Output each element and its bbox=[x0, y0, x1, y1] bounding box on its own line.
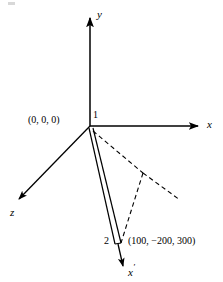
y-axis-label: y bbox=[97, 9, 102, 20]
z-axis-label: z bbox=[10, 207, 14, 218]
z-axis-line bbox=[19, 126, 90, 199]
node-1-coordinate-label: (0, 0, 0) bbox=[28, 115, 60, 125]
member-1-2-edge-left bbox=[89, 128, 115, 244]
member-1-2-end-cap bbox=[115, 243, 121, 244]
dashed-vertex-to-node-2 bbox=[121, 173, 143, 243]
dashed-vertex-to-lower-right bbox=[143, 173, 180, 200]
node-1-label: 1 bbox=[93, 110, 98, 120]
node-2-coordinate-label: (100, −200, 300) bbox=[128, 236, 195, 246]
x-axis-label: x bbox=[207, 119, 212, 130]
x-prime-axis-label: x′ bbox=[128, 263, 135, 279]
node-2-label: 2 bbox=[104, 236, 109, 246]
figure-canvas: y x z x′ 1 (0, 0, 0) 2 (100, −200, 300) bbox=[0, 0, 223, 282]
dashed-origin-to-vertex bbox=[93, 131, 143, 173]
x-prime-axis-label-prime: ′ bbox=[133, 262, 135, 272]
x-prime-axis-line bbox=[118, 244, 123, 266]
member-1-2-edge-right bbox=[93, 128, 121, 243]
